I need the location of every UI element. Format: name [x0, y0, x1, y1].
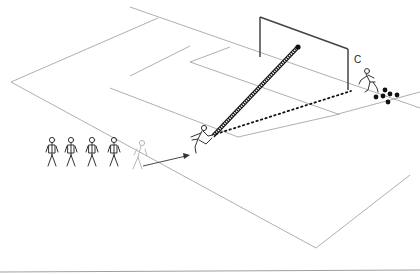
shot-path: [213, 44, 301, 136]
page-bottom-edge: [0, 270, 420, 272]
goal: [260, 17, 348, 90]
queue-player-4: [108, 137, 120, 166]
drill-diagram: C: [0, 0, 420, 274]
queue-players: [46, 137, 120, 166]
pitch-lines: [11, 7, 420, 248]
run-arrow: [143, 153, 190, 166]
queue-player-2: [65, 137, 77, 166]
ball-in-goal: [295, 44, 300, 49]
shooter-figure: [191, 125, 213, 153]
queue-player-3: [86, 137, 98, 166]
coach-figure: [359, 69, 378, 93]
coach-label: C: [354, 54, 361, 65]
queue-player-1: [46, 137, 58, 166]
